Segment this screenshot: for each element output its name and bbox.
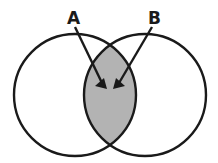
label-a: A <box>67 8 81 28</box>
venn-diagram: A B <box>0 0 218 163</box>
label-b: B <box>148 8 161 28</box>
